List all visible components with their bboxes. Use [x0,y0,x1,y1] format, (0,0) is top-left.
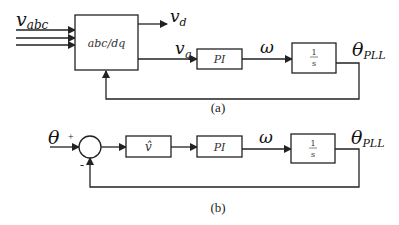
summing-junction [79,136,101,158]
pi-label-b: PI [213,141,226,154]
omega-label-a: ω [260,37,274,57]
vd-label: vd [170,6,187,29]
theta-pll-label-a: θPLL [352,38,385,62]
vq-label: vq [175,38,192,61]
abc-dq-label: abc/dq [88,37,126,50]
caption-a: (a) [211,100,225,115]
integrator-num-a: 1 [311,48,316,57]
integrator-den-b: s [311,150,315,159]
caption-b: (b) [210,200,225,215]
theta-input-label: θ [48,126,60,148]
omega-label-b: ω [259,127,273,147]
plus-sign: + [68,131,74,142]
input-vabc-label: vabc [16,8,49,32]
integrator-num-b: 1 [310,139,315,148]
theta-pll-label-b: θPLL [351,126,384,150]
pll-block-diagram: vabc abc/dq vd vq PI ω 1 s θPLL (a) θ + … [0,0,399,225]
pi-label-a: PI [213,53,226,66]
gain-label: v̂ [145,140,152,154]
minus-sign: - [80,158,84,172]
diagram-b: θ + - v̂ PI ω 1 s θPLL (b) [48,126,384,215]
integrator-den-a: s [312,59,316,68]
diagram-a: vabc abc/dq vd vq PI ω 1 s θPLL (a) [16,6,385,115]
